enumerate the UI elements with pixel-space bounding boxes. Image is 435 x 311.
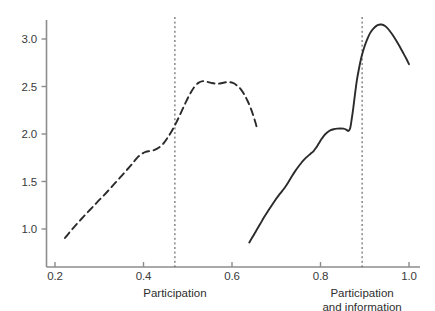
data-series-group (65, 24, 409, 242)
series-line-2 (249, 24, 409, 242)
x-tick-label: 0.6 (224, 270, 239, 282)
x-tick-label: 0.2 (47, 270, 62, 282)
reference-lines (175, 17, 362, 267)
y-tick-label: 3.0 (0, 33, 37, 45)
y-tick-label: 2.0 (0, 128, 37, 140)
series-line-1 (65, 81, 257, 238)
y-tick-label: 2.5 (0, 81, 37, 93)
y-tick-label: 1.5 (0, 176, 37, 188)
annotation-label-line: Participation (330, 287, 393, 299)
plot-canvas (0, 0, 435, 311)
x-tick-label: 0.4 (136, 270, 151, 282)
participation-and-information-reference-label: Participationand information (322, 286, 401, 311)
chart-figure: 1.01.52.02.53.00.20.40.60.81.0Participat… (0, 0, 435, 311)
x-tick-label: 0.8 (313, 270, 328, 282)
participation-reference-label: Participation (143, 286, 206, 300)
annotation-label-line: and information (322, 300, 401, 311)
annotation-label-line: Participation (143, 287, 206, 299)
y-tick-label: 1.0 (0, 223, 37, 235)
x-tick-label: 1.0 (401, 270, 416, 282)
